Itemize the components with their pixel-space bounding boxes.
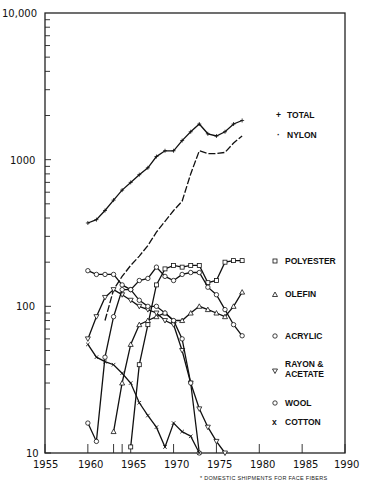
data-point: [231, 322, 235, 326]
series-nylon: [105, 136, 242, 321]
data-point: [111, 429, 116, 434]
data-point: [146, 304, 150, 308]
x-label-1965: 1965: [121, 459, 146, 470]
data-point: [223, 307, 227, 311]
data-point: [163, 267, 167, 271]
y-label-1000: 1000: [10, 155, 35, 166]
y-axis-ticks: [45, 20, 51, 453]
data-point: [120, 287, 124, 291]
legend-cotton-marker: x: [272, 417, 277, 427]
series-olefin: [114, 292, 243, 432]
data-point: [197, 270, 201, 274]
data-point: [85, 337, 90, 342]
data-point: [171, 318, 175, 322]
data-point: [120, 381, 125, 386]
data-point: [103, 355, 107, 359]
legend-wool-marker: [273, 401, 277, 405]
data-point: [197, 263, 201, 267]
data-point: [180, 272, 184, 276]
legend-cotton: COTTON: [285, 417, 321, 427]
legend-acrylic: ACRYLIC: [285, 331, 322, 341]
data-point: [94, 439, 98, 443]
legend-nylon-marker: ·: [277, 130, 280, 140]
data-point: [146, 323, 150, 327]
data-point: [240, 118, 244, 122]
data-point: [103, 295, 108, 300]
series-polyester: [131, 261, 242, 447]
footnote: * DOMESTIC SHIPMENTS FOR FACE FIBERS: [200, 475, 328, 481]
x-label-1960: 1960: [78, 459, 103, 470]
fiber-shipments-chart: 10,000 1000 100 10 1955 1960 1965 1970 1…: [0, 0, 365, 487]
x-label-1985: 1985: [293, 459, 318, 470]
data-point: [154, 304, 158, 308]
data-point: [240, 334, 244, 338]
data-point: [240, 259, 244, 263]
series-total: [88, 121, 242, 224]
data-point: [94, 315, 99, 320]
data-point: [180, 430, 184, 434]
data-series: [85, 118, 244, 455]
legend: + TOTAL · NYLON POLYESTER OLEFIN ACRYLIC…: [272, 110, 336, 427]
data-point: [154, 283, 158, 287]
series-wool: [88, 290, 199, 453]
data-point: [172, 263, 176, 267]
legend-polyester-marker: [273, 259, 277, 263]
data-point: [232, 259, 236, 263]
data-point: [111, 314, 115, 318]
data-point: [86, 343, 90, 347]
x-label-1990: 1990: [334, 459, 359, 470]
x-label-1970: 1970: [164, 459, 189, 470]
data-point: [128, 342, 133, 347]
legend-wool: WOOL: [285, 398, 311, 408]
data-point: [111, 272, 115, 276]
data-point: [86, 221, 90, 225]
plot-frame: [45, 13, 345, 453]
y-label-10: 10: [26, 448, 39, 459]
data-point: [137, 298, 141, 302]
data-point: [197, 407, 202, 412]
data-point: [137, 278, 141, 282]
data-point: [163, 311, 167, 315]
legend-polyester: POLYESTER: [285, 256, 336, 266]
data-point: [137, 363, 141, 367]
data-point: [120, 371, 124, 375]
legend-rayon-marker: [273, 369, 278, 374]
data-point: [86, 268, 90, 272]
y-label-10000: 10,000: [2, 8, 37, 19]
data-point: [214, 293, 218, 297]
data-point: [197, 304, 202, 309]
x-label-1955: 1955: [33, 459, 58, 470]
data-point: [171, 278, 175, 282]
data-point: [103, 272, 107, 276]
legend-nylon: NYLON: [287, 130, 317, 140]
data-point: [206, 285, 210, 289]
data-point: [163, 274, 167, 278]
legend-rayon-1: RAYON &: [285, 359, 323, 369]
data-point: [240, 290, 245, 295]
data-point: [189, 381, 193, 385]
data-point: [180, 265, 184, 269]
legend-rayon-2: ACETATE: [285, 369, 324, 379]
x-label-1980: 1980: [250, 459, 275, 470]
legend-total-marker: +: [276, 110, 281, 120]
legend-total: TOTAL: [287, 110, 315, 120]
data-point: [146, 276, 150, 280]
data-point: [189, 263, 193, 267]
legend-olefin: OLEFIN: [285, 289, 316, 299]
data-point: [223, 260, 227, 264]
data-point: [86, 421, 90, 425]
data-point: [129, 445, 133, 449]
x-label-1975: 1975: [207, 459, 232, 470]
data-point: [129, 287, 133, 291]
legend-olefin-marker: [273, 292, 278, 297]
data-point: [214, 279, 218, 283]
data-point: [189, 270, 193, 274]
data-point: [146, 414, 150, 418]
data-point: [180, 337, 184, 341]
data-point: [120, 283, 124, 287]
legend-acrylic-marker: [273, 334, 277, 338]
y-label-100: 100: [16, 301, 35, 312]
data-point: [94, 272, 98, 276]
data-point: [154, 265, 158, 269]
